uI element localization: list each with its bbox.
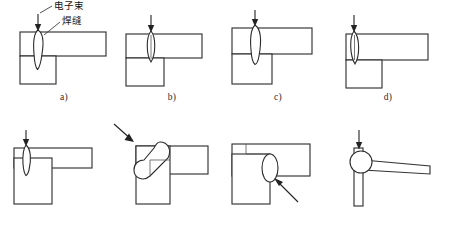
beam-arrowhead-a	[35, 24, 41, 32]
weld-seam-h	[350, 151, 372, 173]
diagram-panel-a: 电子束 焊缝 a)	[8, 2, 120, 114]
diagram-e-drawing	[2, 120, 114, 216]
diagram-panel-g: g)	[222, 120, 334, 229]
diagram-d-drawing	[332, 2, 444, 98]
diagram-panel-d: d)	[332, 2, 444, 114]
horizontal-sheet-part-h	[363, 160, 430, 174]
lower-block-part-d	[346, 60, 382, 88]
top-bar-part-b	[126, 34, 202, 58]
diagram-panel-h: h)	[334, 120, 446, 229]
panel-caption-c: c)	[222, 92, 334, 102]
top-bar-part-c	[232, 28, 312, 54]
lower-block-part-b	[126, 58, 164, 86]
diagram-panel-e: e)	[2, 120, 114, 229]
beam-leader-line-a	[40, 6, 52, 13]
beam-arrowhead-c	[252, 19, 258, 27]
weld-seam-e	[23, 145, 31, 176]
diagram-f-drawing	[110, 120, 222, 216]
beam-arrowhead-d	[351, 25, 357, 33]
seam-label-a: 焊缝	[62, 15, 82, 26]
diagram-h-drawing	[334, 120, 446, 216]
beam-line-g	[278, 182, 298, 202]
beam-arrowhead-g	[274, 178, 283, 186]
panel-caption-a: a)	[8, 92, 120, 102]
beam-label-a: 电子束	[54, 0, 84, 11]
diagram-a-drawing: 电子束 焊缝	[8, 2, 120, 98]
weld-seam-g	[262, 154, 278, 182]
beam-arrowhead-e	[23, 139, 29, 147]
diagram-panel-b: b)	[116, 2, 228, 114]
diagram-c-drawing	[222, 2, 334, 98]
diagram-b-drawing	[116, 2, 228, 98]
top-bar-part-a	[20, 32, 106, 56]
diagram-g-drawing	[222, 120, 334, 216]
lower-block-part-e	[14, 158, 52, 204]
beam-arrowhead-b	[148, 25, 154, 33]
diagram-panel-f: f)	[110, 120, 222, 229]
welding-joint-figure: 电子束 焊缝 a) b) c)	[0, 0, 449, 229]
panel-caption-d: d)	[332, 92, 444, 102]
diagram-panel-c: c)	[222, 2, 334, 114]
weld-seam-c	[251, 25, 261, 65]
panel-caption-b: b)	[116, 92, 228, 102]
